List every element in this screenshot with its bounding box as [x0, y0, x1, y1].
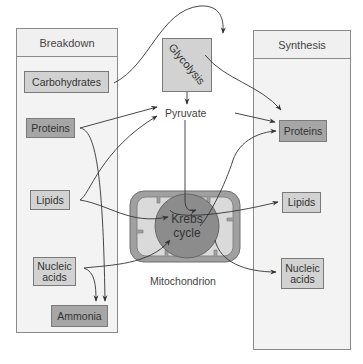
mitochondrion-label: Mitochondrion: [150, 275, 216, 287]
krebs-cycle-label: Krebs cycle: [160, 212, 214, 240]
krebs-line2: cycle: [160, 226, 214, 240]
pathway-arrows: [0, 0, 363, 364]
krebs-line1: Krebs: [160, 212, 214, 226]
